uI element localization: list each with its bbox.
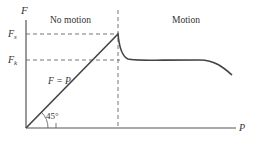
motion-region-label: Motion [172, 15, 200, 25]
line-equation-label: F = P [47, 76, 71, 86]
static-friction-label: Fs [7, 28, 17, 41]
kinetic-friction-label: Fk [7, 54, 18, 67]
friction-diagram: F P Fs Fk No motion Motion F = P 45° [0, 0, 255, 141]
y-axis-label: F [20, 4, 28, 16]
x-axis-label: P [238, 122, 245, 133]
no-motion-region-label: No motion [50, 15, 91, 25]
angle-label: 45° [46, 111, 59, 121]
